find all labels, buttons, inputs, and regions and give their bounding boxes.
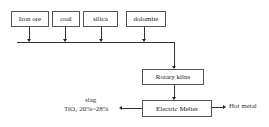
input-label: dolomite <box>134 15 159 23</box>
input-box-dolomite: dolomite <box>126 11 166 27</box>
connector-coal <box>65 27 66 39</box>
electric-melter-label: Electric Melter <box>156 105 198 113</box>
input-box-coal: coal <box>52 11 80 27</box>
slag-composition: TiO₂ 20%~28% <box>64 105 109 113</box>
rotary-kilns-label: Rotary kilns <box>156 73 190 81</box>
arrow-left-icon <box>119 106 122 110</box>
collector-line <box>17 42 174 43</box>
connector-dolomite <box>144 27 145 39</box>
slag-line <box>122 108 142 109</box>
slag-label: slag <box>85 96 96 104</box>
input-box-iron-ore: Iron ore <box>11 11 49 27</box>
hot-metal-line <box>212 107 223 108</box>
input-box-silica: silica <box>83 11 118 27</box>
rotary-kilns-box: Rotary kilns <box>142 69 204 85</box>
connector-silica <box>101 27 102 39</box>
connector-iron-ore <box>29 27 30 39</box>
feed-line <box>174 42 175 67</box>
hot-metal-label: Hot metal <box>229 102 257 110</box>
arrow-right-icon <box>223 105 226 109</box>
input-label: coal <box>60 15 72 23</box>
input-label: Iron ore <box>19 15 41 23</box>
electric-melter-box: Electric Melter <box>142 100 212 117</box>
input-label: silica <box>93 15 108 23</box>
